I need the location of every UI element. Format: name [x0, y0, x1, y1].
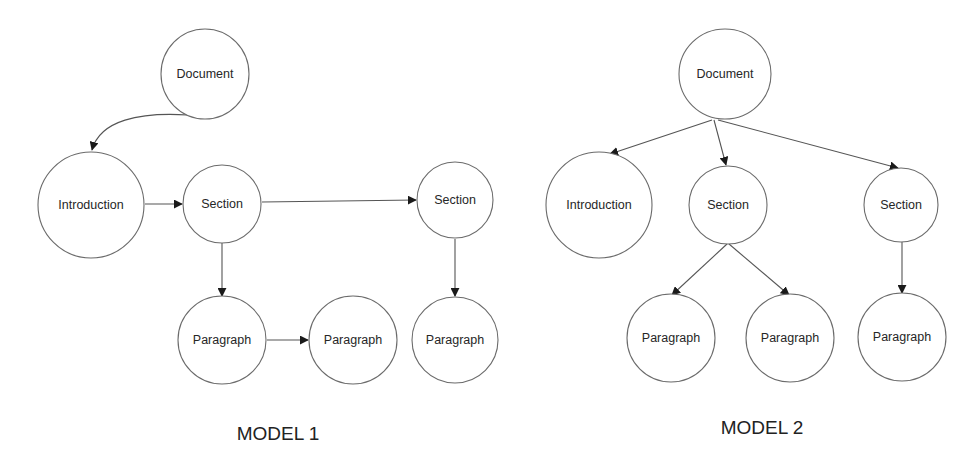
- node-label: Paragraph: [873, 330, 931, 344]
- edge-document-to-section-2: [718, 120, 898, 168]
- node-label: Paragraph: [324, 333, 382, 347]
- edge-document-to-section: [714, 120, 726, 165]
- node-document: Document: [679, 29, 771, 119]
- node-introduction: Introduction: [546, 152, 652, 258]
- node-label: Paragraph: [761, 331, 819, 345]
- node-paragraph: Paragraph: [746, 294, 834, 382]
- node-introduction: Introduction: [38, 152, 144, 258]
- node-label: Section: [880, 198, 922, 212]
- edge-section-to-section: [262, 200, 416, 202]
- node-document: Document: [161, 29, 249, 119]
- node-label: Section: [201, 197, 243, 211]
- edge-section-to-paragraph-2: [729, 244, 789, 295]
- node-label: Section: [434, 193, 476, 207]
- diagram-canvas: Document Introduction Section Section Pa…: [0, 0, 980, 470]
- node-label: Document: [697, 67, 754, 81]
- node-paragraph: Paragraph: [309, 296, 397, 384]
- node-paragraph: Paragraph: [858, 293, 946, 381]
- model-2-caption: MODEL 2: [721, 417, 804, 438]
- node-section: Section: [689, 166, 767, 244]
- node-section: Section: [864, 168, 938, 242]
- edge-document-to-introduction: [92, 114, 188, 150]
- model-1: Document Introduction Section Section Pa…: [38, 29, 498, 444]
- node-label: Paragraph: [642, 331, 700, 345]
- edge-document-to-introduction: [610, 120, 712, 154]
- node-label: Introduction: [566, 198, 631, 212]
- edge-section-to-paragraph: [672, 244, 727, 295]
- node-label: Introduction: [58, 198, 123, 212]
- model-1-caption: MODEL 1: [237, 423, 320, 444]
- node-label: Paragraph: [193, 333, 251, 347]
- node-label: Document: [177, 67, 234, 81]
- node-paragraph: Paragraph: [627, 294, 715, 382]
- node-section: Section: [417, 162, 493, 238]
- node-label: Section: [707, 198, 749, 212]
- node-label: Paragraph: [426, 333, 484, 347]
- model-2: Document Introduction Section Section Pa…: [546, 29, 946, 438]
- node-paragraph: Paragraph: [178, 296, 266, 384]
- node-paragraph: Paragraph: [412, 297, 498, 383]
- model-1-edges: [92, 114, 455, 340]
- node-section: Section: [183, 165, 261, 243]
